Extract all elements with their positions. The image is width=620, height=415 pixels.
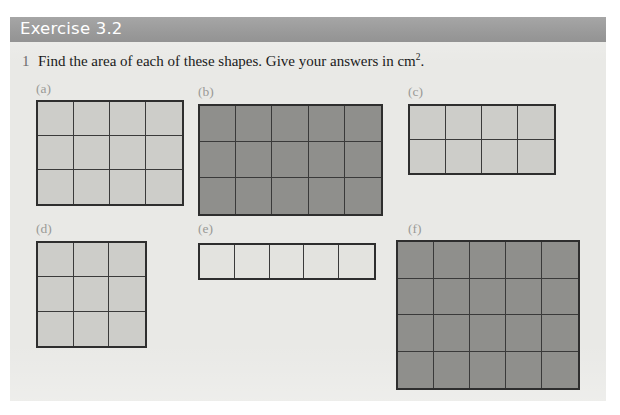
question-1: 1 Find the area of each of these shapes.… bbox=[22, 52, 582, 74]
grid-cell bbox=[200, 245, 235, 278]
question-text: Find the area of each of these shapes. G… bbox=[38, 52, 424, 70]
grid-cell bbox=[109, 277, 145, 311]
grid-cell bbox=[146, 136, 182, 170]
grid-cell bbox=[235, 245, 270, 278]
grid-cell bbox=[309, 178, 345, 214]
shape-label-d: (d) bbox=[36, 222, 52, 236]
grid-cell bbox=[309, 106, 345, 142]
shape-label-a: (a) bbox=[36, 82, 51, 96]
question-text-main: Find the area of each of these shapes. G… bbox=[38, 53, 416, 69]
grid-cell bbox=[146, 102, 182, 136]
grid-cell bbox=[109, 312, 145, 346]
grid-cell bbox=[542, 279, 578, 316]
grid-cell bbox=[482, 106, 518, 140]
grid-cell bbox=[304, 245, 339, 278]
grid-cell bbox=[110, 170, 146, 204]
question-text-tail: . bbox=[421, 53, 425, 69]
shape-grid-f bbox=[396, 240, 580, 390]
grid-cell bbox=[38, 277, 74, 311]
grid-cell bbox=[272, 142, 308, 178]
grid-cell bbox=[110, 136, 146, 170]
grid-cell bbox=[74, 277, 110, 311]
grid-cell bbox=[309, 142, 345, 178]
grid-cell bbox=[345, 178, 381, 214]
grid-cell bbox=[200, 178, 236, 214]
grid-cell bbox=[542, 352, 578, 389]
exercise-page: Exercise 3.2 1 Find the area of each of … bbox=[0, 0, 620, 415]
grid-cell bbox=[200, 106, 236, 142]
grid-cell bbox=[434, 279, 470, 316]
shape-grid-d bbox=[36, 241, 147, 348]
shape-grid-c bbox=[408, 104, 556, 175]
grid-cell bbox=[470, 315, 506, 352]
grid-cell bbox=[506, 279, 542, 316]
grid-cell bbox=[482, 140, 518, 174]
exercise-header-bar: Exercise 3.2 bbox=[10, 17, 606, 42]
grid-cell bbox=[200, 142, 236, 178]
grid-cell bbox=[109, 243, 145, 277]
shape-label-b: (b) bbox=[198, 85, 214, 99]
shape-grid-e bbox=[198, 243, 376, 280]
grid-cell bbox=[542, 315, 578, 352]
grid-cell bbox=[339, 245, 374, 278]
grid-cell bbox=[110, 102, 146, 136]
grid-cell bbox=[398, 352, 434, 389]
grid-cell bbox=[434, 242, 470, 279]
grid-cell bbox=[272, 106, 308, 142]
grid-cell bbox=[270, 245, 305, 278]
grid-cell bbox=[434, 352, 470, 389]
grid-cell bbox=[506, 242, 542, 279]
grid-cell bbox=[434, 315, 470, 352]
grid-cell bbox=[236, 106, 272, 142]
grid-cell bbox=[446, 140, 482, 174]
grid-cell bbox=[506, 352, 542, 389]
shape-grid-b bbox=[198, 104, 383, 216]
grid-cell bbox=[398, 315, 434, 352]
grid-cell bbox=[236, 142, 272, 178]
grid-cell bbox=[345, 142, 381, 178]
grid-cell bbox=[38, 312, 74, 346]
grid-cell bbox=[398, 279, 434, 316]
grid-cell bbox=[74, 243, 110, 277]
grid-cell bbox=[146, 170, 182, 204]
grid-cell bbox=[272, 178, 308, 214]
grid-cell bbox=[542, 242, 578, 279]
grid-cell bbox=[470, 242, 506, 279]
shape-label-c: (c) bbox=[408, 85, 423, 99]
grid-cell bbox=[236, 178, 272, 214]
grid-cell bbox=[518, 140, 554, 174]
shape-grid-a bbox=[36, 100, 184, 206]
grid-cell bbox=[410, 140, 446, 174]
grid-cell bbox=[74, 170, 110, 204]
grid-cell bbox=[38, 102, 74, 136]
grid-cell bbox=[470, 279, 506, 316]
shape-label-e: (e) bbox=[198, 222, 213, 236]
grid-cell bbox=[38, 243, 74, 277]
grid-cell bbox=[74, 102, 110, 136]
shape-label-f: (f) bbox=[408, 222, 422, 236]
exercise-title: Exercise 3.2 bbox=[20, 19, 123, 38]
grid-cell bbox=[345, 106, 381, 142]
grid-cell bbox=[410, 106, 446, 140]
grid-cell bbox=[506, 315, 542, 352]
grid-cell bbox=[74, 312, 110, 346]
grid-cell bbox=[398, 242, 434, 279]
grid-cell bbox=[446, 106, 482, 140]
grid-cell bbox=[518, 106, 554, 140]
grid-cell bbox=[470, 352, 506, 389]
grid-cell bbox=[38, 136, 74, 170]
grid-cell bbox=[38, 170, 74, 204]
grid-cell bbox=[74, 136, 110, 170]
question-number: 1 bbox=[22, 53, 38, 70]
